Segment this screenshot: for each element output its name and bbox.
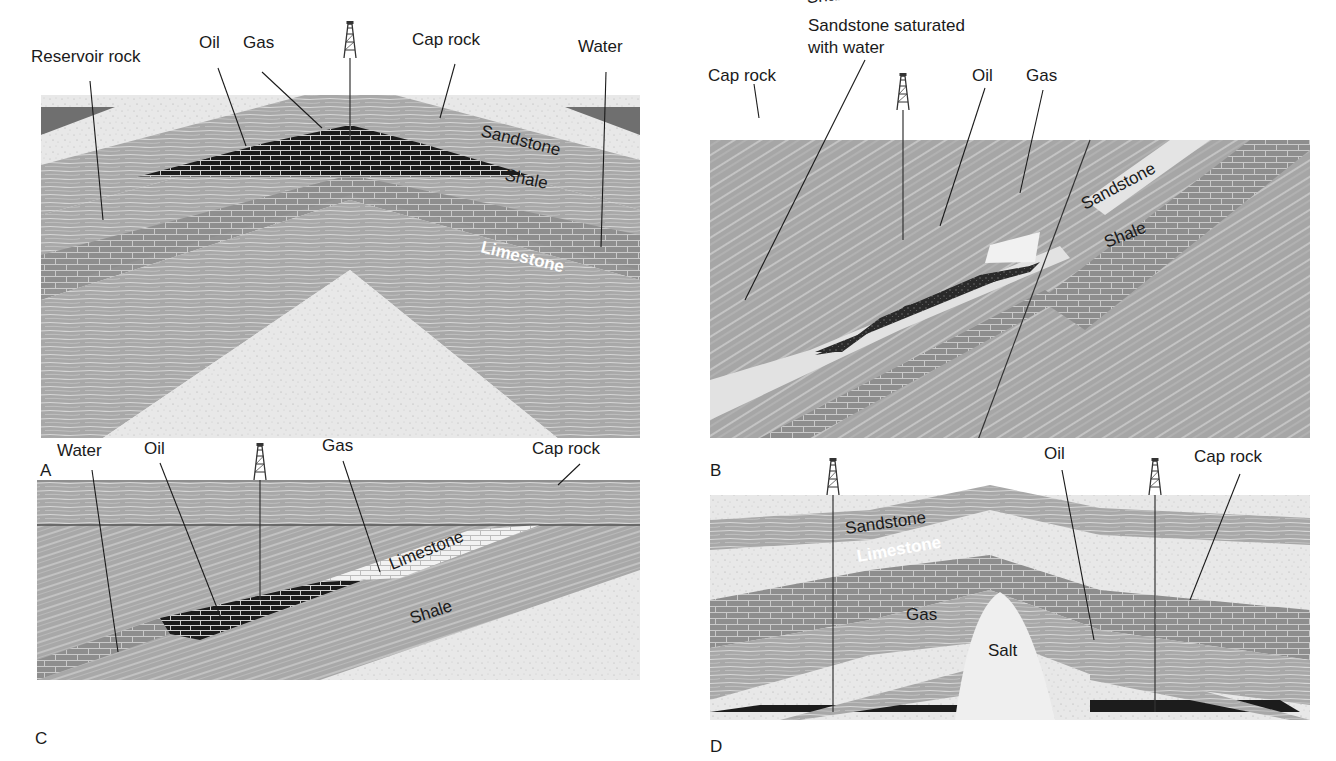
label-cap-rock-c: Cap rock xyxy=(532,439,601,458)
label-oil-c: Oil xyxy=(144,439,165,458)
label-cap-rock-b: Cap rock xyxy=(708,66,777,85)
label-water-a: Water xyxy=(578,37,623,56)
label-cap-rock-d: Cap rock xyxy=(1194,447,1263,466)
panel-letter-a: A xyxy=(40,461,52,480)
label-oil-b: Oil xyxy=(972,66,993,85)
panel-letter-b: B xyxy=(710,461,721,480)
label-oil-d: Oil xyxy=(1044,444,1065,463)
label-sandstone-saturated-line1: Sandstone saturated xyxy=(808,16,965,35)
label-gas-d: Gas xyxy=(906,605,937,624)
label-cap-rock-a: Cap rock xyxy=(412,30,481,49)
label-salt-d: Salt xyxy=(988,641,1018,660)
figure-canvas: Reservoir rock Oil Gas Cap rock Water Sa… xyxy=(0,0,1336,761)
label-gas-a: Gas xyxy=(243,33,274,52)
label-gas-c: Gas xyxy=(322,436,353,455)
label-oil-a: Oil xyxy=(199,33,220,52)
label-sandstone-saturated-line2: with water xyxy=(807,38,885,57)
panel-letter-d: D xyxy=(710,737,722,756)
label-reservoir-rock: Reservoir rock xyxy=(31,47,141,66)
panel-c-stratigraphic-trap: Water Oil Gas Cap rock Limestone Shale C xyxy=(35,436,640,748)
leader-cap-rock-b xyxy=(754,84,759,118)
panel-letter-c: C xyxy=(35,729,47,748)
panel-b-fault-trap: Sandstone saturated with water Cap rock … xyxy=(708,16,1310,480)
panel-a-anticline-trap: Reservoir rock Oil Gas Cap rock Water Sa… xyxy=(31,21,640,480)
label-gas-b: Gas xyxy=(1026,66,1057,85)
label-water-c: Water xyxy=(57,441,102,460)
label-shale-d: Shale xyxy=(806,0,851,7)
